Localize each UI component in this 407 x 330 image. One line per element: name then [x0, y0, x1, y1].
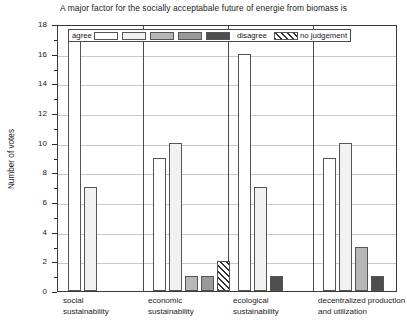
- bar: [371, 276, 384, 291]
- y-axis-title: Number of votes: [7, 114, 16, 204]
- bar: [169, 143, 182, 291]
- chart-container: A major factor for the socially acceptab…: [0, 0, 407, 330]
- legend-label-agree: agree: [72, 31, 92, 40]
- bar: [153, 158, 166, 292]
- bar: [185, 276, 198, 291]
- y-tick-label: 6: [43, 199, 47, 207]
- bar: [217, 261, 230, 291]
- bar: [339, 143, 352, 291]
- x-axis-category-label: socialsustainability: [63, 296, 109, 317]
- legend-swatch-no-judgement-icon: [274, 32, 298, 40]
- bars-group: [58, 26, 396, 291]
- x-axis-category-line: sustainability: [233, 307, 279, 318]
- x-axis-category-line: sustainability: [63, 307, 109, 318]
- y-tick-label: 12: [38, 110, 47, 118]
- y-tick-label: 0: [43, 288, 47, 296]
- bar: [254, 187, 267, 291]
- x-axis-category-label: economicsustainability: [148, 296, 194, 317]
- bar: [323, 158, 336, 292]
- y-tick-label: 4: [43, 229, 47, 237]
- legend-label-disagree: disagree: [237, 31, 267, 40]
- bar: [270, 276, 283, 291]
- y-tick-label: 16: [38, 51, 47, 59]
- y-tick-label: 8: [43, 169, 47, 177]
- legend-swatch-scale-3-icon: [150, 32, 174, 40]
- y-axis: Number of votes 024681012141618: [0, 25, 57, 292]
- y-tick-major: [52, 292, 57, 293]
- y-tick-label: 10: [38, 140, 47, 148]
- x-axis-category-line: and utilization: [318, 307, 405, 318]
- y-tick-label: 18: [38, 21, 47, 29]
- chart-legend: agree disagree no judgement: [68, 29, 351, 42]
- y-tick-label: 14: [38, 80, 47, 88]
- legend-label-no-judgement: no judgement: [300, 31, 347, 40]
- legend-swatch-scale-5-icon: [206, 32, 230, 40]
- legend-swatch-scale-4-icon: [178, 32, 202, 40]
- x-axis-category-label: ecologicalsustainability: [233, 296, 279, 317]
- x-axis-category-line: economic: [148, 296, 194, 307]
- bar: [238, 54, 251, 291]
- chart-title: A major factor for the socially acceptab…: [0, 3, 407, 13]
- x-axis-category-line: sustainability: [148, 307, 194, 318]
- bar: [201, 276, 214, 291]
- y-tick-label: 2: [43, 258, 47, 266]
- x-axis-category-label: decentralized productionand utilization: [318, 296, 405, 317]
- legend-swatch-scale-2-icon: [122, 32, 146, 40]
- x-axis-category-line: ecological: [233, 296, 279, 307]
- x-axis-category-line: decentralized production: [318, 296, 405, 307]
- bar: [84, 187, 97, 291]
- x-axis-labels: socialsustainabilityeconomicsustainabili…: [57, 296, 397, 330]
- plot-area: [57, 25, 397, 292]
- legend-swatch-scale-1-icon: [94, 32, 118, 40]
- x-axis-category-line: social: [63, 296, 109, 307]
- bar: [68, 39, 81, 291]
- bar: [355, 247, 368, 292]
